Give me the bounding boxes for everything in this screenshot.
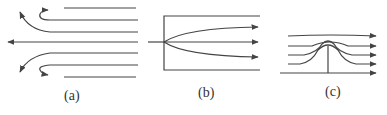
- panel-a-label: (a): [64, 88, 80, 104]
- panel-c-label: (c): [325, 84, 341, 100]
- panel-a-streamlines: [8, 8, 138, 77]
- panel-b-channel: [148, 16, 260, 70]
- panel-b-label: (b): [198, 85, 214, 101]
- panel-c-obstacle-flow: [280, 35, 376, 73]
- flow-diagram-figure: (a) (b) (c): [0, 0, 387, 115]
